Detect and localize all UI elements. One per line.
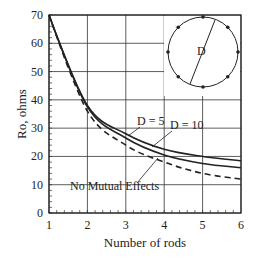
- y-tick-label: 20: [31, 149, 43, 163]
- rod-marker: [226, 25, 230, 29]
- rod-marker: [236, 50, 240, 54]
- rod-marker: [166, 50, 170, 54]
- x-tick-labels: 123456: [46, 218, 244, 232]
- y-tick-label: 0: [37, 206, 43, 220]
- x-axis-label: Number of rods: [104, 235, 186, 250]
- series-label-d5: D = 5: [137, 114, 164, 128]
- diameter-label: D: [197, 44, 206, 58]
- x-tick-label: 3: [123, 218, 129, 232]
- series-label-d10: D = 10: [170, 118, 203, 132]
- inset-rod-circle: D: [164, 15, 240, 96]
- rod-marker: [201, 15, 205, 19]
- rod-marker: [176, 25, 180, 29]
- y-tick-label: 30: [31, 121, 43, 135]
- leader-line-d10: [152, 131, 172, 147]
- y-tick-label: 60: [31, 36, 43, 50]
- y-tick-label: 10: [31, 178, 43, 192]
- x-tick-label: 5: [200, 218, 206, 232]
- y-tick-label: 70: [31, 8, 43, 22]
- series-label-no-mutual: No Mutual Effects: [70, 179, 159, 193]
- x-tick-label: 6: [238, 218, 244, 232]
- rod-marker: [201, 85, 205, 89]
- rod-marker: [176, 75, 180, 79]
- x-tick-label: 2: [84, 218, 90, 232]
- y-tick-labels: 010203040506070: [31, 8, 43, 220]
- line-chart: 123456 010203040506070 Number of rods Ro…: [0, 0, 256, 262]
- x-tick-label: 4: [161, 218, 167, 232]
- rod-marker: [226, 75, 230, 79]
- y-tick-label: 50: [31, 65, 43, 79]
- y-tick-label: 40: [31, 93, 43, 107]
- x-tick-label: 1: [46, 218, 52, 232]
- y-axis-label: Ro, ohms: [14, 89, 29, 139]
